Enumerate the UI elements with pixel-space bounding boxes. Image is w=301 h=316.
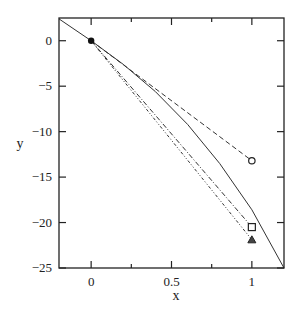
plot-area [59,19,284,268]
x-tick-label: 0 [88,274,95,289]
y-axis-label: y [17,136,24,151]
y-tick-label: −20 [32,215,52,230]
y-tick-label: −25 [32,260,52,275]
square-marker [248,224,255,231]
y-tick-label: −10 [32,124,52,139]
y-tick-label: 0 [46,33,53,48]
x-tick-label: 0.5 [163,274,179,289]
y-tick-label: −15 [32,169,52,184]
series-line-3 [91,41,252,240]
circle-marker [249,158,255,164]
start-point-marker [88,38,94,44]
series-line-2 [91,41,252,227]
chart: 00.510−5−10−15−20−25 x y [0,0,301,316]
axis-ticks: 00.510−5−10−15−20−25 [32,18,284,289]
x-tick-label: 1 [249,274,256,289]
triangle-marker [248,236,256,243]
y-tick-label: −5 [38,78,52,93]
x-axis-label: x [173,288,180,303]
